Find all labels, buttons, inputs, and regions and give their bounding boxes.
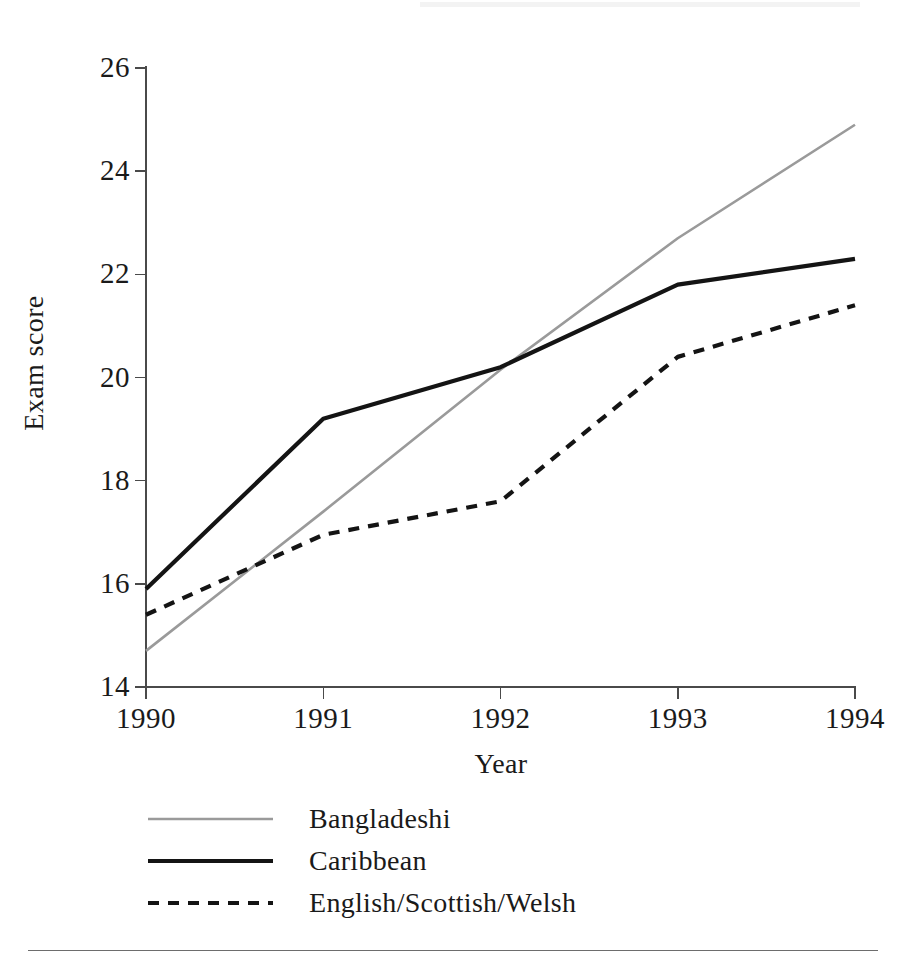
- y-tick-label: 16: [58, 569, 130, 599]
- x-tick-mark: [500, 687, 502, 699]
- legend-line-swatch: [148, 893, 273, 913]
- x-tick-label: 1993: [618, 704, 738, 733]
- y-tick-label: 24: [58, 156, 130, 186]
- x-tick-mark: [677, 687, 679, 699]
- x-tick-label: 1991: [263, 704, 383, 733]
- x-tick-label: 1990: [86, 704, 206, 733]
- x-tick-label: 1994: [795, 704, 906, 733]
- series-line-english-scottish-welsh: [146, 305, 855, 615]
- legend-label: English/Scottish/Welsh: [309, 889, 576, 917]
- y-tick-label: 18: [58, 466, 130, 496]
- legend-label: Caribbean: [309, 847, 427, 875]
- legend-label: Bangladeshi: [309, 805, 451, 833]
- y-tick-label: 14: [58, 672, 130, 702]
- y-tick-mark: [135, 480, 146, 482]
- y-tick-label-text: 14: [70, 672, 130, 701]
- x-axis-title: Year: [146, 748, 856, 780]
- page-bottom-rule: [28, 950, 878, 951]
- x-tick-label: 1992: [441, 704, 561, 733]
- legend-item[interactable]: Bangladeshi: [148, 798, 708, 840]
- y-tick-label: 26: [58, 53, 130, 83]
- series-line-bangladeshi: [146, 125, 855, 651]
- legend-item[interactable]: English/Scottish/Welsh: [148, 882, 708, 924]
- legend-line-swatch: [148, 809, 273, 829]
- y-tick-label-text: 24: [70, 156, 130, 185]
- y-tick-label-text: 20: [70, 363, 130, 392]
- y-tick-mark: [135, 583, 146, 585]
- chart-legend: BangladeshiCaribbeanEnglish/Scottish/Wel…: [148, 798, 708, 924]
- y-tick-label-text: 26: [70, 53, 130, 82]
- y-tick-mark: [135, 170, 146, 172]
- legend-line-swatch: [148, 851, 273, 871]
- y-tick-label-text: 18: [70, 466, 130, 495]
- y-tick-label: 22: [58, 259, 130, 289]
- y-tick-label-text: 16: [70, 569, 130, 598]
- x-tick-mark: [854, 687, 856, 699]
- y-tick-label: 20: [58, 363, 130, 393]
- y-tick-mark: [135, 274, 146, 276]
- scan-artifact: [420, 2, 860, 7]
- y-tick-mark: [135, 67, 146, 69]
- legend-item[interactable]: Caribbean: [148, 840, 708, 882]
- figure-container: 26242220181614 19901991199219931994 Exam…: [0, 0, 906, 972]
- x-tick-mark: [145, 687, 147, 699]
- series-line-caribbean: [146, 259, 855, 589]
- x-tick-mark: [323, 687, 325, 699]
- y-tick-mark: [135, 377, 146, 379]
- y-axis-title: Exam score: [18, 83, 50, 643]
- y-tick-label-text: 22: [70, 259, 130, 288]
